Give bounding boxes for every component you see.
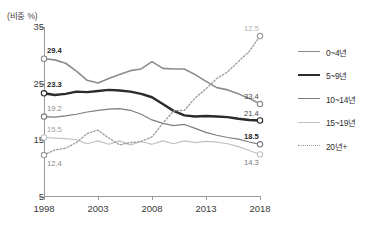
chart-container: (비중 %) 3525155 19982003200820132018 29.4… [0,0,372,226]
series-line [44,138,260,155]
start-value-label: 29.4 [47,47,62,55]
series-lines [44,27,260,197]
x-tick-label: 2018 [238,203,282,214]
y-tick-label: 25 [4,78,44,89]
x-tick-label: 2003 [76,203,120,214]
legend-item-1[interactable]: 0~4년 [298,40,372,64]
plot-area: 3525155 19982003200820132018 29.433.423.… [44,27,260,197]
series-endpoint-marker [257,118,262,123]
series-endpoint-marker [257,33,262,38]
series-endpoint-marker [257,152,262,157]
y-tick-label: 15 [4,134,44,145]
legend-swatch-icon [298,51,320,52]
legend-swatch-icon [298,145,320,146]
series-endpoint-marker [257,101,262,106]
legend-swatch-icon [298,98,320,99]
start-value-label: 15.5 [47,126,62,134]
start-value-label: 19.2 [47,105,62,113]
start-value-label: 23.3 [47,81,62,89]
legend-label: 10~14년 [326,93,356,105]
legend-item-2[interactable]: 5~9년 [298,64,372,88]
x-tick-label: 1998 [22,203,66,214]
legend-label: 0~4년 [326,46,347,58]
legend-label: 5~9년 [326,69,347,81]
x-tick-label: 2008 [130,203,174,214]
legend-item-4[interactable]: 15~19년 [298,111,372,135]
legend-item-3[interactable]: 10~14년 [298,87,372,111]
series-line [44,109,260,145]
series-endpoint-marker [41,152,46,157]
y-axis-unit-label: (비중 %) [7,9,37,21]
legend-swatch-icon [298,74,320,76]
series-endpoint-marker [41,56,46,61]
end-value-label: 12.5 [244,25,259,33]
legend-swatch-icon [298,122,320,123]
series-endpoint-marker [41,91,46,96]
y-tick-label: 5 [4,191,44,202]
legend-label: 20년+ [326,140,347,152]
legend-label: 15~19년 [326,116,356,128]
x-tick-mark [260,196,261,200]
series-endpoint-marker [257,142,262,147]
y-tick-label: 35 [4,21,44,32]
end-value-label: 33.4 [244,93,259,101]
chart-legend: 0~4년5~9년10~14년15~19년20년+ [298,40,372,158]
start-value-label: 12.4 [47,160,62,168]
series-endpoint-marker [41,114,46,119]
series-line [44,90,260,121]
x-tick-label: 2013 [184,203,228,214]
series-endpoint-marker [41,135,46,140]
end-value-label: 18.5 [244,133,259,141]
end-value-label: 14.3 [244,159,259,167]
end-value-label: 21.4 [244,110,259,118]
legend-item-5[interactable]: 20년+ [298,134,372,158]
